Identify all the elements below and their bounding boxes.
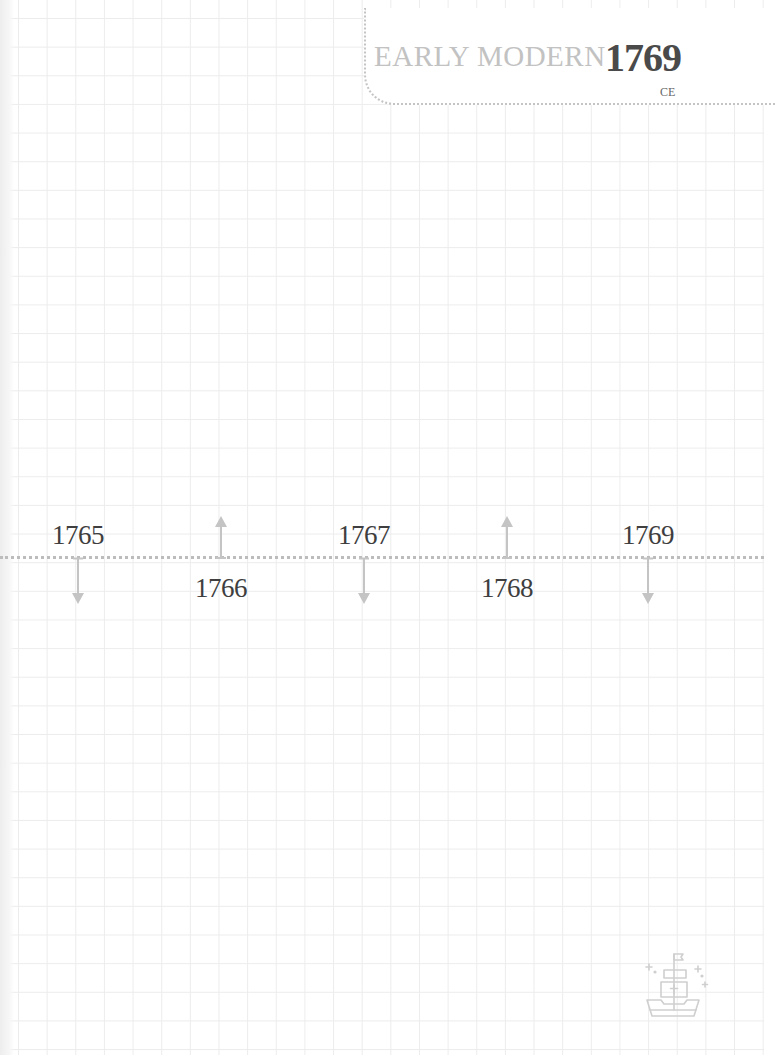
arrow-down-icon (638, 557, 658, 607)
timeline-label-1768: 1768 (467, 573, 547, 603)
arrow-up-icon (211, 514, 231, 560)
arrow-up-icon (497, 514, 517, 560)
timeline-label-1766: 1766 (181, 573, 261, 603)
era-title: EARLY MODERN (374, 40, 606, 73)
arrow-down-icon (354, 557, 374, 607)
arrow-down-icon (68, 557, 88, 607)
timeline-label-1769: 1769 (608, 520, 688, 550)
page-binding-edge (0, 0, 14, 1055)
timeline-label-1767: 1767 (324, 520, 404, 550)
header-year: 1769 (605, 34, 681, 81)
ship-icon (640, 948, 710, 1023)
timeline-label-1765: 1765 (38, 520, 118, 550)
era-suffix: CE (660, 85, 675, 100)
